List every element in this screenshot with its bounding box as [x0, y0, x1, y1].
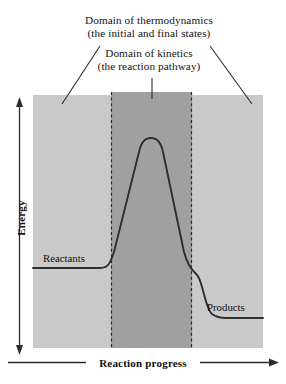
diagram-canvas — [0, 0, 286, 384]
x-axis-title: Reaction progress — [0, 357, 286, 369]
kinetics-region-band — [111, 92, 192, 348]
products-label: Products — [207, 301, 245, 313]
y-axis-title: Energy — [15, 188, 27, 248]
reactants-label: Reactants — [43, 252, 85, 264]
reaction-energy-diagram: Domain of thermodynamics (the initial an… — [0, 0, 286, 384]
y-axis-arrowhead-down — [16, 345, 23, 355]
y-axis-arrowhead-up — [16, 97, 23, 107]
